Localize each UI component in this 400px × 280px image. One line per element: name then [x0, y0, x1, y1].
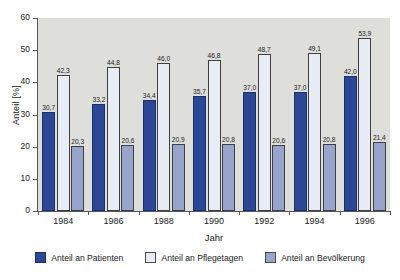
x-tick-mark	[390, 211, 391, 215]
x-tick-mark	[38, 211, 39, 215]
bar	[258, 54, 271, 211]
bar-value-label: 46,0	[153, 55, 174, 62]
bar	[272, 145, 285, 211]
legend-swatch-icon	[35, 252, 46, 263]
bar	[92, 104, 105, 211]
bar	[344, 76, 357, 211]
bar-value-label: 20,6	[268, 137, 289, 144]
x-axis-title: Jahr	[38, 232, 390, 243]
bar-value-label: 53,9	[354, 30, 375, 37]
bar-value-label: 49,1	[304, 45, 325, 52]
y-tick-label: 40	[21, 76, 30, 87]
bar	[243, 92, 256, 211]
x-tick-label: 1994	[295, 216, 335, 226]
legend-label: Anteil an Pflegetagen	[161, 253, 243, 263]
bar-value-label: 20,3	[67, 138, 88, 145]
bar	[42, 112, 55, 211]
x-tick-mark	[239, 211, 240, 215]
legend-item[interactable]: Anteil an Pflegetagen	[145, 252, 243, 263]
x-tick-label: 1990	[194, 216, 234, 226]
bar-value-label: 20,6	[117, 137, 138, 144]
x-tick-label: 1992	[244, 216, 284, 226]
y-tick-label: 50	[21, 44, 30, 55]
bar	[172, 144, 185, 211]
bar-value-label: 20,9	[168, 136, 189, 143]
legend-item[interactable]: Anteil an Bevölkerung	[265, 252, 365, 263]
x-tick-label: 1986	[93, 216, 133, 226]
bar	[143, 100, 156, 211]
bar	[193, 96, 206, 211]
bar	[222, 144, 235, 211]
y-tick-mark	[33, 82, 37, 83]
x-axis-line	[37, 211, 390, 212]
bar	[373, 142, 386, 211]
plot-area: 30,742,320,333,244,820,634,446,020,935,7…	[38, 18, 390, 211]
bar	[308, 53, 321, 211]
bar	[323, 144, 336, 211]
y-tick-mark	[33, 211, 37, 212]
y-tick-label: 20	[21, 141, 30, 152]
y-tick-mark	[33, 147, 37, 148]
y-axis-title: Anteil [%]	[11, 60, 21, 150]
x-tick-mark	[340, 211, 341, 215]
bar-chart: Anteil [%] 30,742,320,333,244,820,634,44…	[0, 0, 400, 280]
x-tick-label: 1984	[43, 216, 83, 226]
bar-value-label: 46,8	[204, 52, 225, 59]
bar-value-label: 20,8	[319, 136, 340, 143]
legend-item[interactable]: Anteil an Patienten	[35, 252, 123, 263]
legend-label: Anteil an Patienten	[51, 253, 123, 263]
x-tick-mark	[88, 211, 89, 215]
y-tick-mark	[33, 50, 37, 51]
x-tick-mark	[139, 211, 140, 215]
y-tick-label: 60	[21, 12, 30, 23]
y-tick: 60	[0, 18, 37, 19]
bar	[71, 146, 84, 211]
bar	[358, 38, 371, 211]
x-tick-mark	[289, 211, 290, 215]
y-tick: 40	[0, 82, 37, 83]
y-tick-label: 30	[21, 109, 30, 120]
y-tick: 10	[0, 179, 37, 180]
y-tick: 50	[0, 50, 37, 51]
legend-swatch-icon	[265, 252, 276, 263]
x-tick-mark	[189, 211, 190, 215]
y-tick-label: 0	[25, 205, 30, 216]
bar	[121, 145, 134, 211]
y-tick-label: 10	[21, 173, 30, 184]
y-axis-line	[37, 18, 38, 211]
bar-value-label: 44,8	[103, 59, 124, 66]
bar-value-label: 48,7	[254, 46, 275, 53]
bar-value-label: 21,4	[369, 134, 390, 141]
chart-legend: Anteil an PatientenAnteil an Pflegetagen…	[0, 252, 400, 263]
x-tick-label: 1996	[345, 216, 385, 226]
y-tick: 30	[0, 115, 37, 116]
y-tick-mark	[33, 18, 37, 19]
y-tick-mark	[33, 179, 37, 180]
legend-label: Anteil an Bevölkerung	[281, 253, 365, 263]
y-tick-mark	[33, 115, 37, 116]
x-tick-label: 1988	[144, 216, 184, 226]
bar-value-label: 42,3	[53, 67, 74, 74]
y-tick: 20	[0, 147, 37, 148]
legend-swatch-icon	[145, 252, 156, 263]
bar	[294, 92, 307, 211]
plot-inner: 30,742,320,333,244,820,634,446,020,935,7…	[38, 18, 390, 211]
y-tick: 0	[0, 211, 37, 212]
bar-value-label: 20,8	[218, 136, 239, 143]
